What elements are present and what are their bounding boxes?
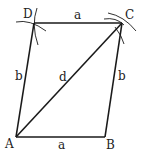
vertex-label-a: A — [4, 137, 14, 151]
edge-label-cd: a — [74, 8, 81, 22]
edge-label-da: b — [15, 69, 23, 83]
vertex-label-d: D — [23, 7, 33, 21]
parallelogram-diagram: A B C D a b a b d — [0, 0, 141, 159]
vertex-label-b: B — [106, 138, 115, 152]
edge-label-diagonal: d — [59, 70, 67, 84]
edge-label-ab: a — [58, 138, 65, 152]
construction-arc-d2 — [34, 8, 38, 45]
vertex-label-c: C — [125, 8, 134, 22]
edge-label-bc: b — [118, 69, 126, 83]
